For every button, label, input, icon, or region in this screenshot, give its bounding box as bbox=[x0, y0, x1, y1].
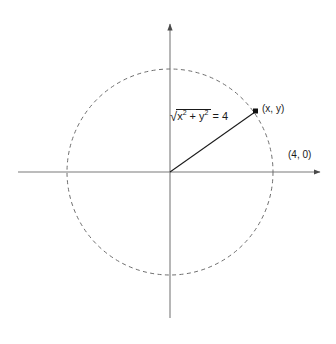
equation-label: √x2 + y2= 4 bbox=[170, 109, 228, 123]
math-diagram-circle: √x2 + y2= 4 (x, y) (4, 0) bbox=[0, 0, 336, 344]
radicand-y-exponent: 2 bbox=[205, 109, 209, 116]
point-label-xy: (x, y) bbox=[262, 104, 284, 114]
plus-operator: + bbox=[190, 110, 196, 122]
radicand-x-exponent: 2 bbox=[183, 109, 187, 116]
x-intercept-label: (4, 0) bbox=[288, 150, 311, 160]
diagram-canvas bbox=[0, 0, 336, 344]
point-marker-xy bbox=[253, 109, 258, 114]
radicand: x2 + y2 bbox=[176, 109, 210, 122]
radical-expression: √x2 + y2 bbox=[170, 109, 211, 123]
equation-right-side: = 4 bbox=[213, 110, 229, 122]
